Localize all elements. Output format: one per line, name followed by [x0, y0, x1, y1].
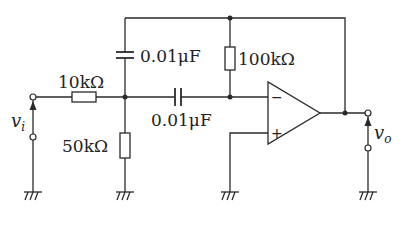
vo-arrow-head [365, 117, 372, 126]
resistor-50k [120, 133, 130, 158]
label-c1: 0.01μF [140, 46, 201, 66]
ground-icon-vo [359, 192, 377, 200]
label-vo: vo [374, 122, 391, 146]
vi-arrow-head [30, 101, 37, 110]
resistor-100k [225, 47, 235, 70]
opamp-inverting-sign: − [271, 89, 283, 105]
vo-terminal-top [365, 110, 371, 116]
vo-terminal-bottom [365, 145, 371, 151]
output-node [343, 111, 348, 116]
label-r2: 50kΩ [62, 136, 108, 156]
vi-terminal-top [30, 94, 36, 100]
opamp-noninverting-sign: + [271, 125, 283, 141]
resistor-10k [72, 92, 96, 102]
ground-icon-opamp [221, 192, 239, 200]
circuit-diagram: − + 0.01μF 100kΩ 10kΩ 0 [0, 0, 410, 226]
inverting-node [228, 95, 233, 100]
label-c2: 0.01μF [151, 110, 212, 130]
label-vi: vi [11, 110, 25, 134]
ground-icon-r2 [116, 192, 134, 200]
label-r3: 100kΩ [238, 49, 295, 69]
noninverting-ground-wire [230, 133, 268, 192]
ground-icon-vi [24, 192, 42, 200]
vi-terminal-bottom [30, 134, 36, 140]
label-r1: 10kΩ [58, 72, 104, 92]
